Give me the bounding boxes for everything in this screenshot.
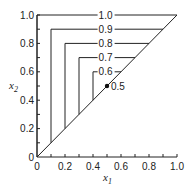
contour-label: 1.0	[99, 10, 113, 21]
y-tick-label: 0.8	[20, 38, 34, 49]
contour-label: 0.6	[99, 66, 113, 77]
y-tick-label: 0.6	[20, 66, 34, 77]
y-axis-label: x2	[8, 79, 18, 94]
y-tick-label: 0.2	[20, 123, 34, 134]
contour-label: 0.9	[99, 24, 113, 35]
contour-diagram: 00.20.40.60.81.000.20.40.60.81.0 1.00.90…	[0, 0, 186, 191]
x-tick-label: 0.4	[86, 161, 100, 172]
x-axis-label: x1	[102, 171, 112, 186]
x-tick-label: 0.6	[114, 161, 128, 172]
contour-label: 0.7	[99, 52, 113, 63]
x-tick-label: 0.8	[142, 161, 156, 172]
point-label: 0.5	[111, 81, 125, 92]
contour-label: 0.8	[99, 38, 113, 49]
y-tick-label: 0.4	[20, 95, 34, 106]
contour-labels: 1.00.90.80.70.6	[98, 10, 115, 78]
y-tick-label: 1.0	[20, 10, 34, 21]
x-tick-label: 0	[34, 161, 40, 172]
x-tick-label: 0.2	[58, 161, 72, 172]
data-point	[105, 84, 109, 88]
y-tick-label: 0	[28, 152, 34, 163]
x-tick-label: 1.0	[170, 161, 184, 172]
